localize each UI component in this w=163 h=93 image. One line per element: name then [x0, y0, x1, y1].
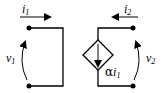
v1-label: v1 [6, 51, 15, 66]
i1-label: i1 [22, 2, 29, 17]
v2-label: v2 [146, 51, 155, 66]
port-1-wire [29, 28, 63, 86]
port-2-bottom-terminal [131, 84, 136, 89]
port-1: i1 v1 [6, 2, 63, 89]
v1-arrow-icon [22, 42, 27, 80]
v2-arrow-icon [134, 42, 139, 80]
port-1-bottom-terminal [27, 84, 32, 89]
source-gain-label: αi1 [105, 65, 120, 80]
port-1-top-terminal [27, 26, 32, 31]
dependent-current-source: αi1 [83, 40, 120, 80]
port-2-top-terminal [131, 26, 136, 31]
circuit-diagram: i1 v1 i2 v2 αi1 [0, 0, 163, 93]
i2-label: i2 [124, 2, 131, 17]
